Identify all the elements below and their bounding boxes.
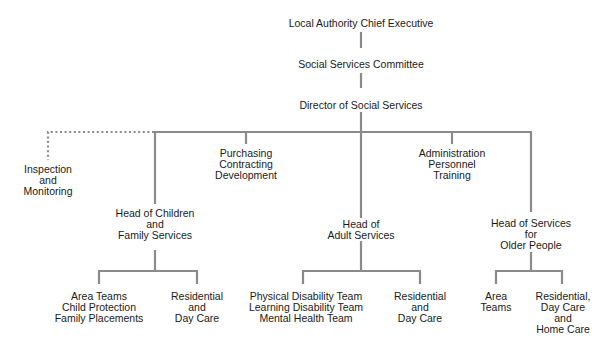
node-head-older-people: Head of Services for Older People	[491, 218, 571, 251]
node-director: Director of Social Services	[299, 100, 422, 111]
node-older-area-teams: Area Teams	[481, 291, 512, 313]
node-children-residential: Residential and Day Care	[171, 291, 223, 324]
node-purchasing: Purchasing Contracting Development	[215, 148, 277, 181]
node-chief-executive: Local Authority Chief Executive	[289, 18, 434, 29]
node-administration: Administration Personnel Training	[419, 148, 486, 181]
node-social-services-committee: Social Services Committee	[298, 59, 423, 70]
node-children-area-teams: Area Teams Child Protection Family Place…	[55, 291, 144, 324]
node-older-residential-home-care: Residential, Day Care and Home Care	[536, 291, 591, 335]
node-head-adult: Head of Adult Services	[327, 219, 394, 241]
node-head-children-family: Head of Children and Family Services	[116, 208, 195, 241]
node-inspection-monitoring: Inspection and Monitoring	[23, 164, 72, 197]
node-adult-residential: Residential and Day Care	[394, 291, 446, 324]
node-adult-teams: Physical Disability Team Learning Disabi…	[249, 291, 363, 324]
